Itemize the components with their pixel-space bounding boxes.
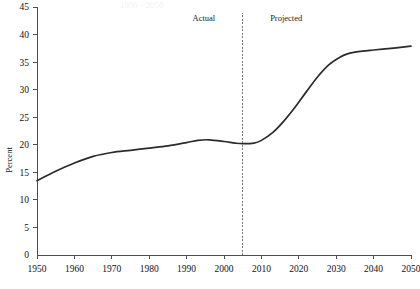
- chart-annotations: ActualProjected: [193, 13, 303, 23]
- series-line-percent: [37, 46, 411, 180]
- y-tick-label: 0: [24, 250, 29, 260]
- x-axis-tick-labels: 1950196019701980199020002010202020302040…: [28, 255, 420, 274]
- y-tick-label: 40: [20, 30, 30, 40]
- y-tick-label: 5: [24, 223, 29, 233]
- y-tick-label: 20: [20, 140, 30, 150]
- actual-label: Actual: [193, 13, 216, 23]
- faint-title-text: 1950 - 2050: [120, 0, 164, 10]
- line-chart: 1950 - 2050 051015202530354045 195019601…: [0, 0, 420, 289]
- y-tick-label: 45: [20, 2, 30, 12]
- x-tick-label: 2000: [215, 264, 234, 274]
- x-tick-label: 1980: [140, 264, 159, 274]
- projected-label: Projected: [270, 13, 303, 23]
- y-tick-label: 15: [20, 168, 30, 178]
- x-tick-label: 2040: [364, 264, 383, 274]
- y-tick-label: 30: [20, 85, 30, 95]
- data-series-line: [37, 46, 411, 180]
- x-tick-label: 2010: [252, 264, 271, 274]
- y-tick-label: 35: [20, 58, 30, 68]
- chart-container: 1950 - 2050 051015202530354045 195019601…: [0, 0, 420, 289]
- x-tick-label: 2050: [402, 264, 420, 274]
- faint-chart-title: 1950 - 2050: [120, 0, 164, 10]
- y-axis-tick-labels: 051015202530354045: [20, 2, 38, 260]
- y-tick-label: 25: [20, 113, 30, 123]
- x-tick-label: 1960: [65, 264, 84, 274]
- x-tick-label: 1970: [102, 264, 121, 274]
- x-tick-label: 2020: [289, 264, 308, 274]
- y-tick-label: 10: [20, 195, 30, 205]
- x-tick-label: 1990: [177, 264, 196, 274]
- x-tick-label: 2030: [327, 264, 346, 274]
- x-tick-label: 1950: [28, 264, 47, 274]
- y-axis-title: Percent: [4, 147, 14, 173]
